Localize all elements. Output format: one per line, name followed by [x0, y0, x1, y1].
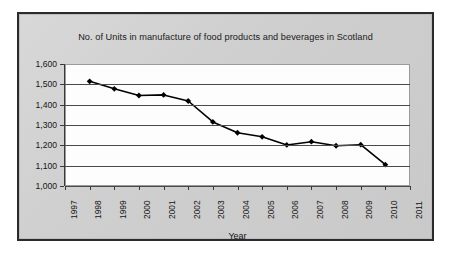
x-axis-tick-label: 2004	[241, 200, 251, 219]
y-axis-tick-label: 1,000	[35, 181, 57, 191]
plot-region	[65, 64, 410, 186]
x-axis-tick-mark	[65, 186, 66, 190]
y-axis-line	[64, 64, 65, 186]
y-axis-tick-label: 1,500	[35, 79, 57, 89]
data-point-marker	[111, 86, 117, 92]
x-axis-tick-label: 2008	[340, 200, 350, 219]
x-axis-tick-label: 2001	[167, 200, 177, 219]
y-axis-tick-mark	[60, 84, 64, 85]
x-axis-tick-label: 2002	[192, 200, 202, 219]
gridline	[65, 105, 410, 106]
x-axis-tick-mark	[213, 186, 214, 190]
y-axis-tick-mark	[60, 166, 64, 167]
chart-frame: No. of Units in manufacture of food prod…	[17, 12, 434, 241]
x-axis-tick-label: 1997	[69, 200, 79, 219]
y-axis-tick-mark	[60, 186, 64, 187]
x-axis-tick-label: 2011	[414, 201, 424, 219]
y-axis-tick-mark	[60, 105, 64, 106]
y-axis-tick-label: 1,600	[35, 59, 57, 69]
x-axis-tick-mark	[188, 186, 189, 190]
series-line	[90, 81, 386, 164]
gridline	[65, 166, 410, 167]
x-axis-tick-label: 1998	[93, 200, 103, 219]
x-axis-tick-mark	[361, 186, 362, 190]
x-axis-tick-mark	[164, 186, 165, 190]
y-axis-tick-label: 1,300	[35, 120, 57, 130]
chart-title: No. of Units in manufacture of food prod…	[19, 32, 432, 42]
x-axis-tick-label: 2007	[315, 200, 325, 219]
y-axis-tick-label: 1,100	[35, 161, 57, 171]
x-axis-tick-label: 2005	[266, 200, 276, 219]
x-axis-tick-mark	[287, 186, 288, 190]
data-point-marker	[161, 92, 167, 98]
x-axis-tick-label: 1999	[118, 200, 128, 219]
y-axis-tick-mark	[60, 64, 64, 65]
x-axis-tick-mark	[114, 186, 115, 190]
data-point-marker	[235, 130, 241, 136]
gridline	[65, 145, 410, 146]
y-axis-tick-label: 1,200	[35, 140, 57, 150]
x-axis-tick-mark	[262, 186, 263, 190]
x-axis-tick-mark	[238, 186, 239, 190]
x-axis-tick-mark	[385, 186, 386, 190]
y-axis-tick-label: 1,400	[35, 100, 57, 110]
x-axis-tick-label: 2006	[290, 200, 300, 219]
x-axis-tick-mark	[139, 186, 140, 190]
y-axis-tick-mark	[60, 125, 64, 126]
x-axis-tick-mark	[90, 186, 91, 190]
x-axis-tick-label: 2009	[364, 200, 374, 219]
x-axis-tick-label: 2000	[142, 200, 152, 219]
x-axis-tick-label: 2003	[216, 200, 226, 219]
data-point-marker	[309, 139, 315, 145]
gridline	[65, 84, 410, 85]
x-axis-tick-mark	[410, 186, 411, 190]
x-axis-title: Year	[65, 231, 410, 241]
data-point-marker	[87, 78, 93, 84]
x-axis-tick-mark	[311, 186, 312, 190]
data-point-marker	[136, 93, 142, 99]
x-axis-tick-mark	[336, 186, 337, 190]
x-axis-tick-label: 2010	[389, 200, 399, 219]
y-axis-tick-mark	[60, 145, 64, 146]
gridline	[65, 125, 410, 126]
data-point-marker	[259, 134, 265, 140]
